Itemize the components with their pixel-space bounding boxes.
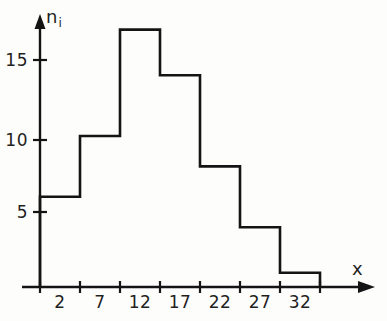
x-axis-title: x: [352, 258, 363, 279]
x-tick-label-2: 2: [54, 292, 65, 312]
y-axis-title-subscript: i: [58, 16, 61, 30]
histogram-bars: [40, 30, 320, 287]
x-tick-label-32: 32: [289, 292, 312, 312]
y-tick-label-10: 10: [5, 130, 28, 150]
x-tick-label-12: 12: [129, 292, 152, 312]
y-tick-label-15: 15: [5, 50, 28, 70]
x-tick-label-22: 22: [209, 292, 232, 312]
x-tick-label-27: 27: [249, 292, 272, 312]
histogram-figure: 15 10 5 2 7 12 17 22 27 32 ni x: [0, 0, 387, 321]
x-axis-arrowhead: [358, 281, 375, 293]
x-tick-label-7: 7: [94, 292, 105, 312]
y-axis-title: ni: [46, 6, 61, 27]
y-axis-arrowhead: [35, 14, 46, 29]
histogram-plot: [0, 0, 387, 321]
x-tick-label-17: 17: [169, 292, 192, 312]
y-axis-title-base: n: [46, 6, 57, 27]
y-tick-label-5: 5: [17, 202, 28, 222]
